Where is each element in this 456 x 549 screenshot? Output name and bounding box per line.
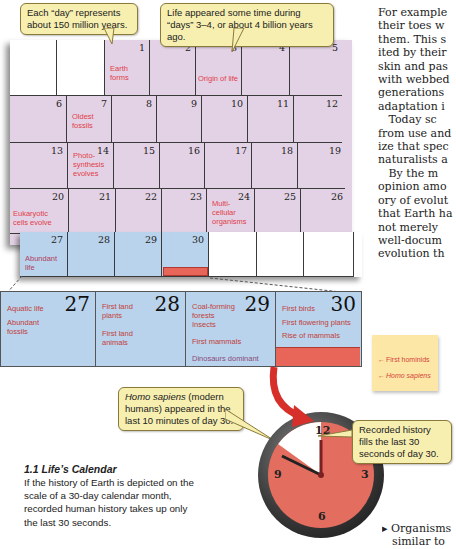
- callout-pointer: [230, 28, 250, 58]
- calendar-cell-day-6: 6: [10, 96, 67, 143]
- day-number: 18: [281, 145, 293, 156]
- zoom-day-number: 30: [331, 292, 356, 316]
- label-first-hominids: First hominids: [386, 356, 430, 363]
- clock-number-3: 3: [361, 468, 369, 481]
- body-text-line: ory of evolut: [378, 194, 456, 207]
- body-text-line: ited by their: [378, 46, 456, 59]
- day-number: 22: [145, 191, 157, 202]
- calendar-cell-day-15: 15: [114, 143, 160, 189]
- day-number: 19: [329, 145, 341, 156]
- event-first-flowering-plants: First flowering plants: [282, 318, 351, 327]
- calendar-cell-day-8: 8: [112, 96, 157, 143]
- day-number: 7: [101, 98, 107, 109]
- day-number: 10: [231, 98, 243, 109]
- clock-number-6: 6: [318, 510, 326, 523]
- calendar-cell-day-16: 16: [160, 143, 205, 189]
- body-text-line: Today sc: [378, 113, 456, 126]
- day-number: 17: [235, 145, 247, 156]
- callout-pointer: [100, 28, 120, 48]
- event-rise-of-mammals: Rise of mammals: [282, 331, 340, 340]
- calendar-cell-day-19: 19: [298, 143, 345, 189]
- zoom-panel-last-days: 27 Aquatic life Abundant fossils 28 Firs…: [0, 291, 362, 367]
- event-abundant-fossils: Abundant fossils: [7, 318, 47, 336]
- life-calendar: 1 Earth forms 2 3 Origin of life 4 5 6 7…: [10, 40, 352, 245]
- body-text-line: By the m: [378, 167, 456, 180]
- event-eukaryotic-cells: Eukaryotic cells evolve: [13, 209, 57, 227]
- calendar-cell-day-26: 26: [301, 189, 347, 234]
- callout-text: Recorded history fills the last 30 secon…: [359, 424, 439, 459]
- day-number: 20: [52, 191, 64, 202]
- day-number: 8: [146, 98, 152, 109]
- day-number: 29: [145, 234, 157, 245]
- figure-caption-title: 1.1 Life’s Calendar: [24, 463, 117, 475]
- day-number: 11: [277, 98, 289, 109]
- label-homo-sapiens: Homo sapiens: [386, 372, 431, 379]
- sticky-note-hominids: ← First hominids ← Homo sapiens: [372, 335, 438, 391]
- day-number: 21: [99, 191, 111, 202]
- calendar-cell-day-11: 11: [248, 96, 294, 143]
- calendar-cell-day-22: 22: [116, 189, 162, 234]
- day-number: 6: [56, 98, 62, 109]
- body-text-line: For example: [378, 6, 456, 19]
- body-text-line: them. This s: [378, 33, 456, 46]
- body-text-line: ize that spec: [378, 140, 456, 153]
- zoom-day-number: 27: [65, 292, 90, 316]
- event-earth-forms: Earth forms: [110, 64, 144, 82]
- calendar-cell-day-23: 23: [162, 189, 207, 234]
- calendar-cell-day-10: 10: [202, 96, 248, 143]
- bullet-line: similar to: [382, 535, 456, 548]
- event-coal-forests: Coal-forming forests: [192, 302, 238, 320]
- event-photosynthesis: Photo-synthesis evolves: [73, 151, 107, 178]
- calendar-cell-day-14: 14 Photo-synthesis evolves: [68, 143, 114, 189]
- figure-caption-body: If the history of Earth is depicted on t…: [24, 476, 194, 529]
- body-text-line: that Earth ha: [378, 207, 456, 220]
- day-number: 15: [143, 145, 155, 156]
- day-number: 12: [326, 98, 338, 109]
- day-number: 1: [139, 42, 145, 53]
- body-text-line: skin and pas: [378, 60, 456, 73]
- curved-arrow-icon: [262, 365, 322, 435]
- day-number: 25: [284, 191, 296, 202]
- body-text-line: naturalists a: [378, 153, 456, 166]
- callout-text: Each “day” represents about 150 million …: [27, 7, 127, 30]
- zoom-day-30: 30 First birds First flowering plants Ri…: [276, 292, 361, 366]
- event-first-land-animals: First land animals: [102, 329, 142, 347]
- day-number: 26: [331, 191, 343, 202]
- calendar-cell-blank: [10, 40, 57, 96]
- day-number: 23: [190, 191, 202, 202]
- zoom-day-number: 29: [245, 292, 270, 316]
- body-text-column: For example their toes w them. This s it…: [378, 6, 456, 261]
- body-text-line: generations: [378, 86, 456, 99]
- calendar-cell-day-12: 12: [294, 96, 342, 143]
- callout-text-italic: Homo sapiens: [125, 391, 186, 402]
- day-number: 16: [188, 145, 200, 156]
- clock-number-9: 9: [274, 468, 282, 481]
- calendar-cell-day-17: 17: [205, 143, 252, 189]
- calendar-cell-day-1: 1 Earth forms: [105, 40, 150, 96]
- body-text-line: opinion amo: [378, 180, 456, 193]
- event-first-mammals: First mammals: [192, 337, 241, 346]
- calendar-cell-day-5: 5: [290, 40, 342, 96]
- callout-day-scale: Each “day” represents about 150 million …: [20, 3, 138, 35]
- calendar-cell-day-24: 24 Multi-cellular organisms: [207, 189, 255, 234]
- zoom-day-27: 27 Aquatic life Abundant fossils: [1, 292, 96, 366]
- event-first-birds: First birds: [282, 304, 315, 313]
- event-multicellular: Multi-cellular organisms: [212, 199, 252, 226]
- event-dinosaurs-dominant: Dinosaurs dominant: [192, 354, 259, 363]
- bullet-text: ▸ Organisms similar to: [382, 522, 456, 549]
- body-text-line: adaptation i: [378, 100, 456, 113]
- arrow-left-icon: ←: [378, 356, 385, 363]
- day-number: 30: [192, 234, 204, 245]
- calendar-cell-blank: [57, 40, 105, 96]
- body-text-line: well-docum: [378, 234, 456, 247]
- event-first-land-plants: First land plants: [102, 302, 142, 320]
- event-insects: Insects: [192, 320, 216, 329]
- body-text-line: their toes w: [378, 19, 456, 32]
- calendar-cell-day-18: 18: [252, 143, 298, 189]
- callout-pointer: [318, 428, 354, 440]
- event-aquatic-life: Aquatic life: [7, 304, 44, 313]
- day-number: 28: [98, 234, 110, 245]
- arrow-left-icon: ←: [378, 372, 385, 379]
- zoom-day-29: 29 Coal-forming forests Insects First ma…: [186, 292, 276, 366]
- body-text-line: evolution th: [378, 247, 456, 260]
